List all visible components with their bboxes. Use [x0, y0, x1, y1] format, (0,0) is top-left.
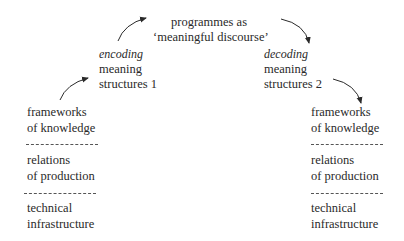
programmes-line2: ‘meaningful discourse’ [153, 30, 269, 45]
right-divider-1 [311, 144, 383, 145]
decoding-line1: meaning [264, 62, 307, 77]
left-divider-1 [26, 144, 98, 145]
right-divider-2 [311, 193, 383, 194]
arrow-frameworks-to-encoding-icon [60, 78, 88, 100]
arrow-decoding-to-frameworks-icon [333, 79, 361, 103]
left-frameworks-line2: of knowledge [27, 121, 95, 136]
right-relations-line2: of production [311, 169, 379, 184]
decoding-label: decoding [264, 47, 308, 62]
encoding-label: encoding [99, 47, 143, 62]
left-technical-line2: infrastructure [27, 217, 94, 232]
right-frameworks-line1: frameworks [311, 105, 371, 120]
left-divider-2 [24, 193, 96, 194]
right-technical-line2: infrastructure [311, 217, 378, 232]
decoding-line2: structures 2 [264, 77, 322, 92]
right-frameworks-line2: of knowledge [311, 121, 379, 136]
left-relations-line2: of production [27, 169, 95, 184]
encoding-line2: structures 1 [99, 77, 157, 92]
right-technical-line1: technical [311, 201, 356, 216]
arrow-encoding-to-programmes-icon [118, 18, 146, 41]
encoding-line1: meaning [99, 62, 142, 77]
left-frameworks-line1: frameworks [27, 105, 87, 120]
left-relations-line1: relations [27, 153, 70, 168]
left-technical-line1: technical [27, 201, 72, 216]
right-relations-line1: relations [311, 153, 354, 168]
arrow-programmes-to-decoding-icon [281, 19, 309, 43]
programmes-line1: programmes as [171, 15, 247, 30]
